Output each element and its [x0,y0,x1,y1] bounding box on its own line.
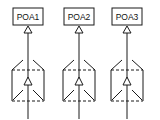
poa-label: POA1 [17,12,40,22]
inner-triangle-icon [123,77,131,85]
arrow-head-icon [24,26,32,33]
poa-unit-2: POA2 [63,8,95,119]
poa-label: POA2 [68,12,91,22]
poa-unit-1: POA1 [12,8,44,119]
poa-unit-3: POA3 [111,8,143,119]
inner-triangle-icon [75,77,83,85]
poa-label: POA3 [116,12,139,22]
poa-diagram: POA1 POA2 [0,0,160,120]
inner-triangle-icon [24,77,32,85]
arrow-head-icon [123,26,131,33]
arrow-head-icon [75,26,83,33]
